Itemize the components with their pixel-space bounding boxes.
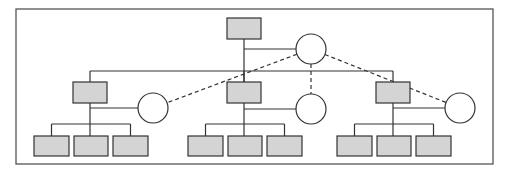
branch-node-circle <box>445 93 475 123</box>
branch-node-box <box>73 82 107 103</box>
child-node-box <box>74 136 108 156</box>
branch-node-box <box>227 82 261 103</box>
child-node-box <box>377 136 411 156</box>
child-node-box <box>113 136 148 156</box>
child-node-box <box>267 136 302 156</box>
branch-node-circle <box>138 93 168 123</box>
root-node-box <box>227 18 261 39</box>
branch-node-circle <box>296 94 326 124</box>
child-node-box <box>337 136 372 156</box>
branch-node-box <box>376 82 410 103</box>
child-node-box <box>188 136 223 156</box>
child-node-box <box>228 136 262 156</box>
nodes <box>34 18 475 156</box>
child-node-box <box>416 136 451 156</box>
hierarchy-diagram <box>0 0 509 171</box>
root-node-circle <box>296 34 326 64</box>
child-node-box <box>34 136 69 156</box>
